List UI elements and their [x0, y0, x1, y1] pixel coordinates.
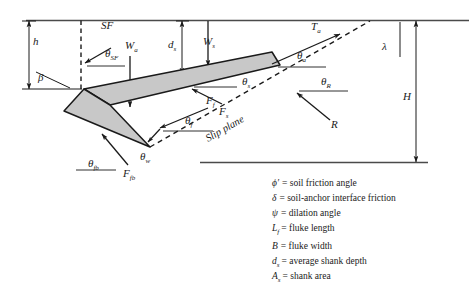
theta-w-arrow [148, 129, 160, 142]
label-lambda: λ [381, 40, 387, 52]
legend-item: δ= soil-anchor interface friction [272, 193, 396, 203]
label-Ff: Ff [205, 94, 216, 109]
legend-item: Lf= fluke length [271, 223, 335, 236]
anchor-force-diagram: h β SF θSF Wa ds Ws Ta θa λ H Ff θf Fs θ… [0, 0, 469, 286]
legend-item: As= shank area [271, 271, 331, 284]
label-theta-f: θf [185, 114, 193, 129]
legend-item: ds= average shank depth [272, 256, 367, 269]
label-R: R [330, 118, 338, 130]
Ta-force-vector [272, 34, 340, 64]
label-Fs: Fs [218, 105, 229, 120]
label-H: H [402, 90, 412, 102]
label-theta-SF: θSF [105, 47, 119, 62]
legend-item: ϕ′= soil friction angle [272, 178, 357, 188]
label-Ta: Ta [311, 20, 321, 35]
legend-item: ψ= dilation angle [272, 208, 341, 218]
label-theta-s: θs [242, 75, 250, 90]
label-h: h [33, 35, 39, 47]
label-beta: β [37, 71, 44, 83]
label-theta-w: θw [140, 150, 150, 165]
legend: ϕ′= soil friction angle δ= soil-anchor i… [271, 178, 396, 284]
label-Wa: Wa [125, 39, 138, 54]
label-Ws: Ws [203, 35, 215, 50]
figure-canvas: h β SF θSF Wa ds Ws Ta θa λ H Ff θf Fs θ… [0, 0, 469, 286]
Ffb-force-vector [102, 134, 128, 165]
label-ds: ds [168, 38, 177, 53]
label-Ffb: Ffb [122, 167, 136, 182]
label-SF: SF [101, 19, 114, 31]
legend-item: B= fluke width [272, 241, 332, 251]
label-theta-fb: θfb [88, 157, 99, 172]
R-force-vector [297, 93, 330, 120]
label-theta-R: θR [321, 75, 331, 90]
